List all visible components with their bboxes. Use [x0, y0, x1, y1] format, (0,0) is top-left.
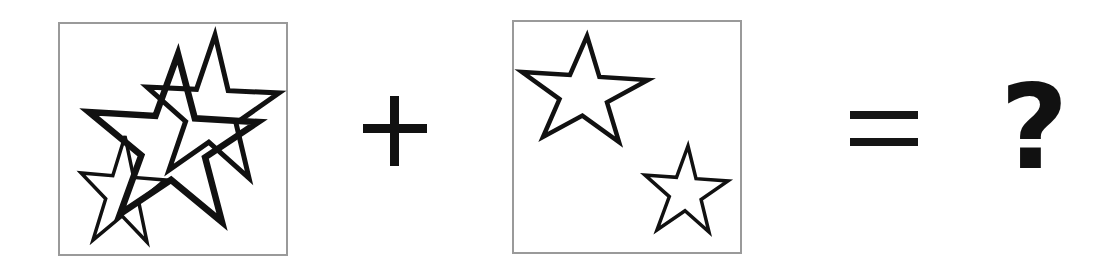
star-icon	[645, 146, 728, 232]
star-icon	[147, 35, 279, 178]
equals-top-bar	[850, 111, 918, 119]
star-icon	[522, 36, 648, 142]
star-icon	[89, 54, 258, 222]
equals-bottom-bar	[850, 138, 918, 146]
plus-vertical-bar	[390, 96, 399, 166]
star-icon	[81, 136, 165, 242]
stars-layer	[0, 0, 1107, 269]
question-mark: ?	[1000, 62, 1060, 192]
